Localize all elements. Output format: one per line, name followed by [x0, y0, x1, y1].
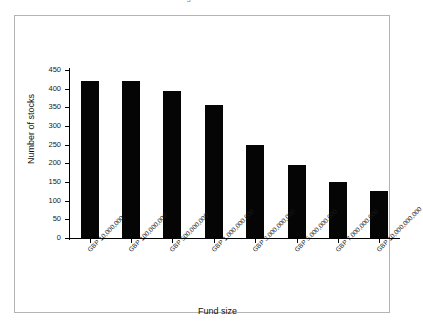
y-axis-tick-label: 0	[33, 233, 61, 242]
figure-frame: Number of stocks 05010015020025030035040…	[14, 15, 390, 313]
bar	[246, 145, 264, 238]
y-axis-tick-label: 350	[33, 102, 61, 111]
y-axis-tick-label: 300	[33, 121, 61, 130]
y-axis-tick-label: 100	[33, 196, 61, 205]
y-axis-tick-label: 200	[33, 158, 61, 167]
bars-layer	[69, 70, 400, 238]
bar	[288, 165, 306, 238]
bar	[81, 81, 99, 238]
y-axis-tick-label: 50	[33, 214, 61, 223]
y-axis-tick-label: 450	[33, 65, 61, 74]
y-axis-tick-label: 250	[33, 140, 61, 149]
clipped-page-title: The intelligent fund investor	[0, 0, 405, 6]
y-axis-tick-label: 400	[33, 84, 61, 93]
y-axis-tick-label: 150	[33, 177, 61, 186]
x-axis-title: Fund size	[15, 306, 420, 316]
bar	[122, 81, 140, 238]
clipped-page-title-text: The intelligent fund investor	[0, 0, 405, 2]
